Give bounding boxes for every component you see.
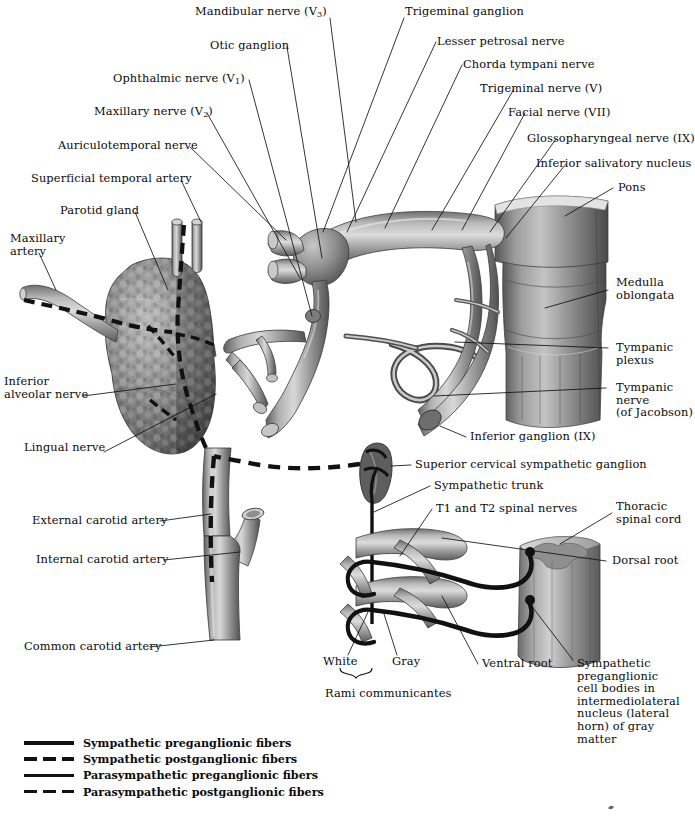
label-auriculotemporal-nerve: Auriculotemporal nerve (58, 139, 198, 152)
label-sympathetic-preganglionic-cell-bodies: Sympatheticpreganglioniccell bodies inin… (577, 657, 680, 745)
label-maxillary-nerve: Maxillary nerve (V2) (94, 105, 213, 121)
legend-row: Sympathetic preganglionic fibers (24, 736, 324, 750)
label-glossopharyngeal-nerve: Glossopharyngeal nerve (IX) (527, 132, 695, 145)
cranial-nerve-descent (415, 244, 499, 436)
maxillary-artery-vessel (20, 285, 118, 342)
rami-brace (340, 668, 372, 678)
legend-row: Sympathetic postganglionic fibers (24, 752, 324, 766)
legend-label: Parasympathetic preganglionic fibers (83, 769, 318, 781)
legend-label: Sympathetic preganglionic fibers (83, 737, 291, 749)
label-sympathetic-trunk: Sympathetic trunk (434, 479, 544, 492)
label-external-carotid-artery: External carotid artery (32, 514, 168, 527)
sympathetic-chain-group (340, 443, 600, 667)
trigeminal-group (259, 211, 504, 439)
label-mandibular-nerve: Mandibular nerve (V3) (195, 5, 327, 21)
label-dorsal-root: Dorsal root (612, 554, 678, 567)
v1-stump (268, 231, 304, 256)
label-pons: Pons (618, 181, 646, 194)
legend-label: Sympathetic postganglionic fibers (83, 753, 297, 765)
fiber-type-legend: Sympathetic preganglionic fibers Sympath… (24, 736, 324, 801)
legend-row: Parasympathetic preganglionic fibers (24, 768, 324, 782)
label-chorda-tympani-nerve: Chorda tympani nerve (463, 58, 595, 71)
label-lesser-petrosal-nerve: Lesser petrosal nerve (437, 35, 565, 48)
label-lingual-nerve: Lingual nerve (24, 441, 105, 454)
label-ophthalmic-nerve: Ophthalmic nerve (V1) (113, 72, 245, 88)
label-inferior-ganglion: Inferior ganglion (IX) (470, 430, 596, 443)
legend-label: Parasympathetic postganglionic fibers (83, 786, 324, 798)
label-medulla-oblongata: Medullaoblongata (616, 276, 674, 301)
label-common-carotid-artery: Common carotid artery (24, 640, 161, 653)
label-inferior-alveolar-nerve: Inferioralveolar nerve (4, 375, 88, 400)
label-inferior-salivatory-nucleus: Inferior salivatory nucleus (536, 157, 692, 170)
label-trigeminal-nerve: Trigeminal nerve (V) (480, 82, 602, 95)
legend-row: Parasympathetic postganglionic fibers (24, 785, 324, 799)
label-otic-ganglion: Otic ganglion (210, 39, 289, 52)
label-thoracic-spinal-cord: Thoracicspinal cord (616, 500, 681, 525)
label-gray-ramus: Gray (392, 655, 420, 668)
label-white-ramus: White (323, 655, 358, 668)
label-rami-communicantes: Rami communicantes (325, 687, 452, 700)
label-parotid-gland: Parotid gland (60, 204, 139, 217)
parasympathetic-postganglionic-swatch-icon (24, 785, 74, 799)
label-superficial-temporal-artery: Superficial temporal artery (31, 172, 192, 185)
sympathetic-postganglionic-swatch-icon (24, 752, 74, 766)
label-superior-cervical-sympathetic-ganglion: Superior cervical sympathetic ganglion (415, 458, 647, 471)
otic-ganglion-body (306, 310, 321, 323)
label-trigeminal-ganglion: Trigeminal ganglion (405, 5, 524, 18)
label-maxillary-artery: Maxillaryartery (10, 232, 66, 257)
label-t1-t2-spinal-nerves: T1 and T2 spinal nerves (436, 502, 577, 515)
label-ventral-root: Ventral root (482, 657, 552, 670)
label-facial-nerve: Facial nerve (VII) (508, 106, 610, 119)
label-tympanic-plexus: Tympanicplexus (616, 341, 673, 366)
parasympathetic-preganglionic-swatch-icon (24, 768, 74, 782)
sympathetic-preganglionic-swatch-icon (24, 736, 74, 750)
label-internal-carotid-artery: Internal carotid artery (36, 553, 169, 566)
label-tympanic-nerve: Tympanicnerve(of Jacobson) (616, 381, 693, 419)
parotid-gland-body (100, 252, 220, 462)
